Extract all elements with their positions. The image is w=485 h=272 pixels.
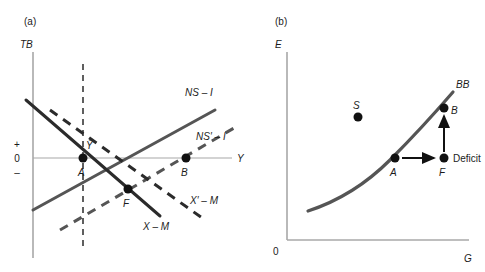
panel-a-zero-sign: 0 (14, 153, 20, 164)
curve-x-minus-m-label: X – M (142, 221, 170, 232)
curve-ns-prime-minus-i-label: NS′ – I (196, 131, 226, 142)
panel-b-y-axis-label: E (275, 39, 282, 50)
curve-ns-minus-i-label: NS – I (185, 87, 213, 98)
panel-a-y-axis-label: TB (20, 39, 33, 50)
panel-a-negative-sign: – (14, 167, 20, 178)
panel-a-positive-sign: + (14, 139, 20, 150)
panel-a-point-B-label: B (181, 167, 188, 178)
curve-bb-label: BB (456, 79, 470, 90)
panel-b-point-B-label: B (451, 105, 458, 116)
curve-bb (308, 92, 453, 211)
panel-a-point-A (79, 154, 88, 163)
panel-b-point-S (354, 113, 363, 122)
panel-b-x-axis-label: G (464, 253, 472, 264)
panel-b-point-F (440, 154, 449, 163)
curve-x-prime-minus-m-label: X′ – M (189, 195, 219, 206)
panel-b-point-F-label: F (439, 167, 446, 178)
panel-b-point-B (440, 104, 449, 113)
panel-a-point-A-label: A (77, 167, 85, 178)
panel-b-point-A-label: A (389, 167, 397, 178)
panel-b-label: (b) (275, 16, 287, 27)
figure-container: (a) TB Y + 0 – Ȳ NS – I NS′ – I X – M (0, 0, 485, 272)
panel-b-deficit-label: Deficit (453, 153, 481, 164)
panel-a-x-axis-label: Y (237, 153, 245, 164)
panel-a-plot: (a) TB Y + 0 – Ȳ NS – I NS′ – I X – M (0, 0, 250, 272)
panel-a-point-F (124, 185, 133, 194)
panel-b-origin-label: 0 (273, 246, 279, 257)
panel-b-point-S-label: S (353, 100, 360, 111)
panel-b: (b) E G 0 BB S A B (250, 0, 485, 272)
panel-a: (a) TB Y + 0 – Ȳ NS – I NS′ – I X – M (0, 0, 250, 272)
panel-b-point-A (391, 154, 400, 163)
panel-a-point-F-label: F (123, 198, 130, 209)
panel-a-point-B (182, 154, 191, 163)
panel-b-plot: (b) E G 0 BB S A B (250, 0, 485, 272)
panel-a-label: (a) (24, 16, 36, 27)
